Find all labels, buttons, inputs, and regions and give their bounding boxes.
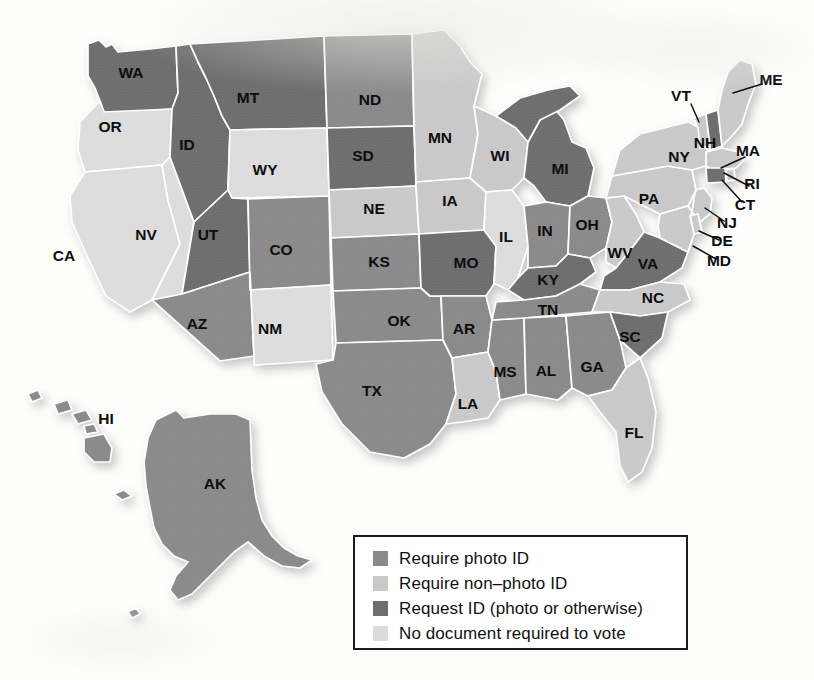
state-label-AZ: AZ <box>187 315 208 332</box>
map-legend: Require photo ID Require non–photo ID Re… <box>353 535 688 650</box>
legend-label-no-document-required: No document required to vote <box>399 624 626 644</box>
state-label-AL: AL <box>536 362 557 379</box>
callout-label-NJ: NJ <box>717 214 737 231</box>
state-AL[interactable] <box>524 316 572 400</box>
legend-item-require-photo-id[interactable]: Require photo ID <box>373 546 686 571</box>
state-AK-chain[interactable] <box>114 490 132 500</box>
state-label-GA: GA <box>580 358 603 375</box>
legend-label-require-non-photo-id: Require non–photo ID <box>399 574 567 594</box>
state-label-AR: AR <box>453 320 475 337</box>
state-label-CA: CA <box>53 247 75 264</box>
state-AK[interactable] <box>144 410 312 600</box>
state-label-ND: ND <box>359 91 381 108</box>
legend-swatch-request-id <box>373 601 388 616</box>
state-label-IN: IN <box>537 222 553 239</box>
state-label-NY: NY <box>668 148 690 165</box>
state-label-AK: AK <box>204 475 227 492</box>
state-label-MO: MO <box>454 254 479 271</box>
state-label-SC: SC <box>619 328 641 345</box>
state-label-HI: HI <box>98 410 114 427</box>
state-HI-4[interactable] <box>84 424 98 434</box>
state-label-CO: CO <box>269 241 292 258</box>
map-figure: WAORCANVIDMTWYUTAZCONMNDSDNEKSOKTXMNIAMO… <box>0 0 814 680</box>
callout-label-RI: RI <box>744 175 760 192</box>
state-label-NM: NM <box>258 320 282 337</box>
state-label-ID: ID <box>179 136 195 153</box>
legend-label-require-photo-id: Require photo ID <box>399 549 529 569</box>
state-OR[interactable] <box>78 101 172 172</box>
state-label-MT: MT <box>237 89 260 106</box>
legend-swatch-require-photo-id <box>373 551 388 566</box>
state-label-MN: MN <box>428 129 452 146</box>
state-label-WA: WA <box>119 64 144 81</box>
state-label-NE: NE <box>363 200 385 217</box>
state-label-TX: TX <box>362 382 382 399</box>
state-label-MS: MS <box>493 363 516 380</box>
state-label-IL: IL <box>499 228 513 245</box>
state-label-SD: SD <box>352 147 374 164</box>
legend-swatch-require-non-photo-id <box>373 576 388 591</box>
state-label-WI: WI <box>491 147 510 164</box>
state-label-TN: TN <box>538 301 559 318</box>
state-label-OH: OH <box>575 216 598 233</box>
state-label-MI: MI <box>551 160 568 177</box>
state-HI-1[interactable] <box>28 390 42 402</box>
state-label-LA: LA <box>458 395 479 412</box>
legend-item-request-id[interactable]: Request ID (photo or otherwise) <box>373 596 686 621</box>
callout-label-DE: DE <box>711 232 733 249</box>
state-ND[interactable] <box>324 34 414 128</box>
state-MN[interactable] <box>412 30 482 182</box>
callout-label-MD: MD <box>707 252 731 269</box>
state-WY[interactable] <box>228 128 329 198</box>
legend-label-request-id: Request ID (photo or otherwise) <box>399 599 643 619</box>
state-label-FL: FL <box>625 424 644 441</box>
callout-label-VT: VT <box>671 87 691 104</box>
state-TX[interactable] <box>316 340 456 458</box>
callout-label-ME: ME <box>759 71 782 88</box>
callout-label-MA: MA <box>736 142 760 159</box>
state-HI-5[interactable] <box>84 434 112 462</box>
state-label-OK: OK <box>387 312 411 329</box>
state-label-NV: NV <box>135 226 157 243</box>
state-label-PA: PA <box>639 190 659 207</box>
state-label-WY: WY <box>253 161 279 178</box>
legend-swatch-no-document-required <box>373 626 388 641</box>
callout-label-CT: CT <box>735 196 756 213</box>
legend-item-no-document-required[interactable]: No document required to vote <box>373 621 686 646</box>
state-label-WV: WV <box>608 244 634 261</box>
state-label-IA: IA <box>442 192 458 209</box>
callout-label-NH: NH <box>694 134 716 151</box>
state-HI-2[interactable] <box>54 400 72 414</box>
state-label-UT: UT <box>198 226 219 243</box>
state-label-KY: KY <box>537 271 559 288</box>
state-label-OR: OR <box>98 118 121 135</box>
state-ME[interactable] <box>718 60 756 146</box>
legend-item-require-non-photo-id[interactable]: Require non–photo ID <box>373 571 686 596</box>
state-label-KS: KS <box>368 253 390 270</box>
state-label-VA: VA <box>638 255 658 272</box>
state-AK-aleutians[interactable] <box>128 608 140 618</box>
state-label-NC: NC <box>642 289 664 306</box>
state-HI-3[interactable] <box>72 410 92 424</box>
